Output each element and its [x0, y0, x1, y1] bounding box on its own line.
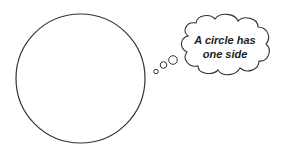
thought-text-line1: A circle has	[193, 34, 255, 46]
main-circle	[16, 14, 145, 143]
diagram-canvas: A circle has one side	[0, 0, 291, 151]
thought-text-line2: one side	[203, 48, 248, 60]
thought-dot-large	[169, 56, 178, 65]
thought-dot-small	[154, 69, 158, 73]
thought-dot-medium	[160, 62, 167, 69]
